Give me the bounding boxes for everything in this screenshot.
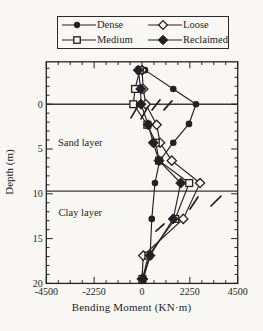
y-tick-label: 20 xyxy=(33,278,43,289)
plot-frame xyxy=(46,62,237,284)
series-markers-medium xyxy=(130,67,193,283)
x-tick-label: 0 xyxy=(140,286,145,297)
slash-mark xyxy=(156,224,164,231)
y-tick-label: 15 xyxy=(33,233,43,244)
y-axis-title: Depth (m) xyxy=(3,132,17,212)
x-tick-labels: -4500-2250022504500 xyxy=(35,286,248,297)
slash-mark xyxy=(211,196,221,206)
soil-layer-labels: Sand layerClay layer xyxy=(58,137,103,218)
y-tick-label: 5 xyxy=(38,143,43,154)
y-tick-labels: 05101520 xyxy=(33,99,43,289)
x-tick-label: 2250 xyxy=(180,286,200,297)
x-axis-title: Bending Moment (KN·m) xyxy=(0,301,263,313)
soil-layer-label: Sand layer xyxy=(58,137,103,148)
y-tick-label: 0 xyxy=(38,99,43,110)
slash-marks xyxy=(131,100,221,231)
soil-layer-label: Clay layer xyxy=(59,207,103,218)
x-tick-label: 4500 xyxy=(228,286,248,297)
figure-bending-moment-vs-depth: Dense Loose Medium Reclaimed -4500-22500… xyxy=(0,0,263,331)
series-markers-loose xyxy=(137,66,204,284)
y-tick-label: 10 xyxy=(33,188,43,199)
slash-mark xyxy=(164,101,172,110)
x-tick-label: -2250 xyxy=(82,286,105,297)
slash-mark xyxy=(152,100,160,110)
axis-ticks xyxy=(46,62,237,284)
plot-area: -4500-225002250450005101520Sand layerCla… xyxy=(0,0,263,331)
